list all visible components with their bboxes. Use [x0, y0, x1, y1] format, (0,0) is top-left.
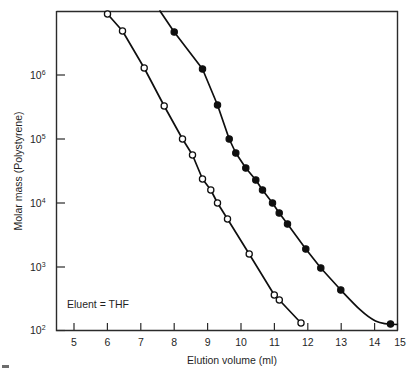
x-tick-labels: 5 6 7 8 9 10 11 12 13 14 15 — [71, 336, 406, 348]
data-point-open — [199, 176, 205, 182]
data-point-open — [189, 152, 195, 158]
x-tick-label: 8 — [171, 336, 177, 348]
chart-figure: 106 105 104 103 102 5 6 7 8 9 10 11 12 — [0, 0, 413, 373]
x-tick-label: 10 — [235, 336, 247, 348]
data-point-filled — [226, 136, 232, 142]
data-point-filled — [387, 321, 393, 327]
plot-canvas: 106 105 104 103 102 5 6 7 8 9 10 11 12 — [0, 0, 413, 373]
data-point-open — [208, 187, 214, 193]
x-axis-ticks — [74, 323, 398, 331]
x-tick-label: 11 — [269, 336, 280, 348]
data-point-filled — [253, 177, 259, 183]
data-point-filled — [243, 165, 249, 171]
data-point-open — [246, 251, 252, 257]
x-tick-label: 13 — [335, 336, 347, 348]
data-point-filled — [171, 29, 177, 35]
y-tick-exponent: 5 — [42, 133, 46, 140]
x-tick-label: 14 — [369, 336, 381, 348]
y-tick-label: 102 — [30, 324, 46, 336]
axis-frame — [57, 11, 399, 331]
x-tick-label: 7 — [138, 336, 144, 348]
data-point-open — [179, 136, 185, 142]
x-tick-label: 15 — [394, 336, 406, 348]
data-point-filled — [303, 246, 309, 252]
data-point-open — [104, 11, 110, 17]
y-tick-base: 10 — [30, 324, 42, 336]
y-tick-label: 104 — [30, 197, 46, 209]
x-tick-label: 12 — [302, 336, 314, 348]
data-point-filled — [199, 66, 205, 72]
data-point-open — [224, 216, 230, 222]
data-point-filled — [269, 200, 275, 206]
x-tick-label: 9 — [205, 336, 211, 348]
data-point-filled — [338, 287, 344, 293]
data-point-filled — [233, 150, 239, 156]
y-axis-title: Molar mass (Polystyrene) — [12, 111, 24, 230]
y-tick-exponent: 4 — [42, 197, 46, 204]
y-axis-ticks — [57, 75, 66, 331]
data-point-open — [276, 297, 282, 303]
data-point-open — [271, 292, 277, 298]
y-tick-base: 10 — [30, 133, 42, 145]
eluent-annotation: Eluent = THF — [67, 298, 129, 310]
data-point-filled — [284, 221, 290, 227]
y-tick-labels: 106 105 104 103 102 — [30, 69, 46, 336]
data-point-filled — [318, 265, 324, 271]
y-tick-exponent: 6 — [42, 69, 46, 76]
data-point-filled — [214, 102, 220, 108]
y-tick-label: 106 — [30, 69, 46, 81]
data-point-open — [298, 320, 304, 326]
series-filled-circles — [160, 11, 397, 327]
data-point-open — [119, 28, 125, 34]
y-tick-label: 105 — [30, 133, 46, 145]
data-point-filled — [259, 187, 265, 193]
data-point-open — [214, 200, 220, 206]
data-point-open — [161, 103, 167, 109]
x-axis-title: Elution volume (ml) — [187, 354, 277, 366]
data-point-open — [141, 65, 147, 71]
x-tick-label: 5 — [71, 336, 77, 348]
scan-artifact — [2, 365, 9, 368]
y-tick-base: 10 — [30, 69, 42, 81]
y-tick-exponent: 3 — [42, 261, 46, 268]
y-tick-base: 10 — [30, 261, 42, 273]
series-open-circles — [104, 11, 304, 326]
y-tick-label: 103 — [30, 261, 46, 273]
data-point-filled — [276, 210, 282, 216]
x-tick-label: 6 — [104, 336, 110, 348]
y-tick-exponent: 2 — [42, 324, 46, 331]
y-tick-base: 10 — [30, 197, 42, 209]
